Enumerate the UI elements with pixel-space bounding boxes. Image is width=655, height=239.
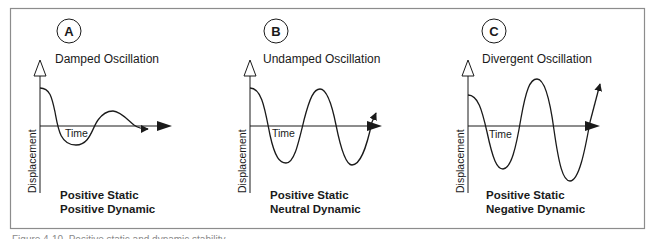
panel-title-b: Undamped Oscillation <box>263 52 380 66</box>
x-axis-label-c: Time <box>489 128 512 140</box>
y-axis-hollow-arrow-icon <box>34 60 46 76</box>
badge-b: B <box>271 24 280 39</box>
verdict-b-line1: Positive Static <box>270 189 349 201</box>
x-axis-arrow-icon <box>367 121 382 131</box>
y-axis-label-b: Displacement <box>236 129 248 193</box>
verdict-c-line2: Negative Dynamic <box>486 203 586 215</box>
divergent-curve-end <box>590 84 600 122</box>
panel-title-a: Damped Oscillation <box>55 52 159 66</box>
figure-caption: Figure 4-10. Positive static and dynamic… <box>12 234 225 239</box>
verdict-a-line2: Positive Dynamic <box>60 203 156 215</box>
badge-a: A <box>64 24 74 39</box>
y-axis-label-c: Displacement <box>454 129 466 193</box>
undamped-curve-end <box>372 113 376 122</box>
divergent-oscillation-curve <box>468 79 590 181</box>
badge-c: C <box>489 24 499 39</box>
x-axis-label-a: Time <box>65 127 88 139</box>
verdict-c-line1: Positive Static <box>486 189 565 201</box>
verdict-b-line2: Neutral Dynamic <box>270 203 361 215</box>
y-axis-hollow-arrow-icon <box>462 60 474 76</box>
y-axis-label-a: Displacement <box>26 129 38 193</box>
stability-diagram: A Damped Oscillation Time Displacement P… <box>0 0 655 239</box>
verdict-a-line1: Positive Static <box>60 189 139 201</box>
x-axis-label-b: Time <box>272 127 295 139</box>
x-axis-arrow-icon <box>157 121 172 131</box>
damped-oscillation-curve <box>40 88 148 145</box>
y-axis-hollow-arrow-icon <box>244 60 256 76</box>
panel-c: C Divergent Oscillation Time Displacemen… <box>454 19 600 215</box>
panel-a: A Damped Oscillation Time Displacement P… <box>26 19 172 215</box>
x-axis-arrow-icon <box>585 121 600 131</box>
panel-title-c: Divergent Oscillation <box>482 52 592 66</box>
panel-b: B Undamped Oscillation Time Displacement… <box>236 19 382 215</box>
